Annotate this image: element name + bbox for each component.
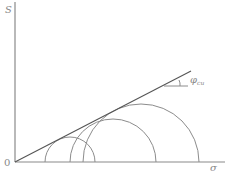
origin-label: 0: [4, 157, 10, 168]
mohr-coulomb-diagram: S 0 σ φcu: [0, 0, 230, 183]
angle-subscript: cu: [197, 79, 204, 86]
y-axis-label: S: [5, 4, 12, 15]
angle-label: φcu: [190, 74, 204, 86]
mohr-circle-3: [83, 104, 199, 162]
x-axis-label: σ: [210, 162, 218, 173]
failure-envelope-line: [15, 71, 191, 162]
angle-symbol: φ: [190, 74, 197, 85]
angle-arc: [179, 80, 180, 86]
